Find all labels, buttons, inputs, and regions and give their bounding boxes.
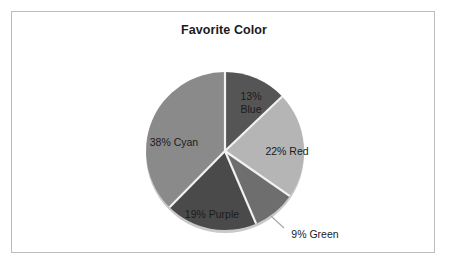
- pie-label-cyan: 38% Cyan: [132, 136, 216, 149]
- pie-label-blue-name: Blue: [227, 103, 275, 116]
- pie-label-cyan-text: 38% Cyan: [132, 136, 216, 149]
- pie-label-blue-value: 13%: [227, 90, 275, 103]
- pie-label-red-text: 22% Red: [251, 145, 323, 158]
- pie-label-red: 22% Red: [251, 145, 323, 158]
- pie-label-purple: 19% Purple: [167, 208, 257, 221]
- pie-label-green-text: 9% Green: [275, 228, 355, 241]
- pie-label-purple-text: 19% Purple: [167, 208, 257, 221]
- green-label-leader-line: [271, 216, 284, 228]
- pie-label-blue: 13% Blue: [227, 90, 275, 116]
- chart-frame: Favorite Color 13% Blue: [11, 11, 435, 253]
- pie-chart-plot-area: 13% Blue 22% Red 9% Green 19% Purple 38%…: [12, 12, 436, 254]
- pie-label-green: 9% Green: [275, 228, 355, 241]
